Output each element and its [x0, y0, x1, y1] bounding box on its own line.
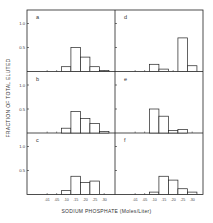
histogram-bar: [90, 181, 100, 194]
histogram-bar: [61, 67, 71, 72]
histogram-bar: [159, 116, 169, 133]
panel-label: a: [36, 14, 40, 20]
panel-label: f: [124, 137, 126, 143]
x-tick-label: .30: [102, 198, 107, 202]
x-tick-label: .05: [142, 198, 147, 202]
panel-label: c: [36, 137, 39, 143]
x-tick-label: .01: [133, 198, 138, 202]
histogram-bar: [61, 128, 71, 133]
x-tick-label: .15: [73, 198, 78, 202]
histogram-bar: [71, 176, 81, 194]
histogram-bar: [99, 132, 109, 133]
x-tick-label: .15: [161, 198, 166, 202]
panel-label: b: [36, 76, 39, 82]
histogram-bar: [71, 48, 81, 72]
x-tick-label: .01: [45, 198, 50, 202]
histogram-bar: [149, 64, 159, 71]
x-tick-label: .20: [83, 198, 88, 202]
histogram-bar: [168, 131, 178, 133]
x-tick-label: .25: [92, 198, 97, 202]
histogram-bar: [61, 191, 71, 195]
histogram-bar: [80, 119, 90, 133]
svg-text:1.0: 1.0: [19, 83, 25, 88]
histogram-bar: [99, 71, 109, 72]
svg-text:0.5: 0.5: [19, 168, 25, 173]
histogram-bar: [159, 69, 169, 71]
histogram-figure: a0.51.0b0.51.0c0.51.0.01.05.10.15.20.25.…: [0, 0, 213, 223]
histogram-bar: [168, 180, 178, 194]
histogram-bar: [187, 192, 197, 194]
svg-text:1.0: 1.0: [19, 144, 25, 149]
x-tick-label: .25: [180, 198, 185, 202]
panel-label: d: [124, 14, 127, 20]
panel-label: e: [124, 76, 127, 82]
x-tick-label: .10: [152, 198, 157, 202]
x-tick-label: .20: [171, 198, 176, 202]
histogram-bar: [187, 66, 197, 72]
histogram-bar: [71, 111, 81, 133]
histogram-bar: [149, 192, 159, 194]
x-tick-label: .10: [64, 198, 69, 202]
x-axis-label: SODIUM PHOSPHATE (Moles/Liter): [0, 208, 213, 214]
y-axis-label: FRACTION OF TOTAL ELUTED: [5, 38, 11, 158]
histogram-bar: [90, 67, 100, 72]
histogram-bar: [80, 183, 90, 195]
histogram-bar: [80, 57, 90, 71]
histogram-bar: [149, 109, 159, 133]
x-tick-label: .05: [54, 198, 59, 202]
svg-text:1.0: 1.0: [19, 21, 25, 26]
svg-text:0.5: 0.5: [19, 107, 25, 112]
x-tick-label: .30: [190, 198, 195, 202]
histogram-bar: [178, 189, 188, 195]
histogram-bar: [178, 38, 188, 72]
histogram-bar: [90, 123, 100, 133]
histogram-bar: [159, 176, 169, 194]
svg-text:0.5: 0.5: [19, 45, 25, 50]
histogram-bar: [178, 130, 188, 133]
